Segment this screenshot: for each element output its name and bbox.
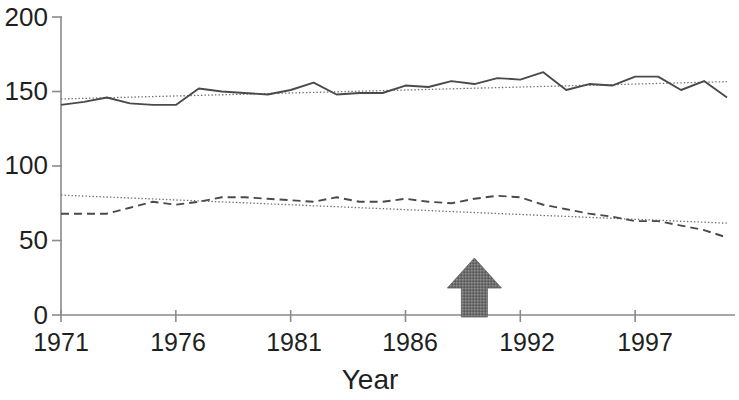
data-series-group [61, 72, 727, 237]
trendlines-group [61, 82, 727, 224]
upper-trendline [61, 82, 727, 99]
x-tick-label-1971: 1971 [13, 330, 109, 355]
y-tick-label-150: 150 [0, 78, 48, 104]
x-axis-title: Year [280, 366, 460, 394]
y-tick-label-200: 200 [0, 4, 48, 30]
x-tick-label-1986: 1986 [362, 330, 458, 355]
x-tick-label-1976: 1976 [130, 330, 226, 355]
x-tick-label-1981: 1981 [246, 330, 342, 355]
line-chart: 200 150 100 50 0 1971 1976 1981 1986 199… [0, 0, 739, 400]
x-tick-label-1992: 1992 [479, 330, 575, 355]
y-tick-label-0: 0 [0, 302, 48, 328]
y-tick-label-50: 50 [0, 227, 48, 253]
lower-series-line [61, 196, 727, 238]
axes-group [52, 17, 735, 322]
x-axis-ticks [61, 310, 635, 322]
upper-series-line [61, 72, 727, 105]
up-arrow-icon [447, 258, 501, 317]
y-tick-label-100: 100 [0, 152, 48, 178]
intervention-arrow [447, 258, 501, 317]
x-tick-label-1997: 1997 [597, 330, 693, 355]
